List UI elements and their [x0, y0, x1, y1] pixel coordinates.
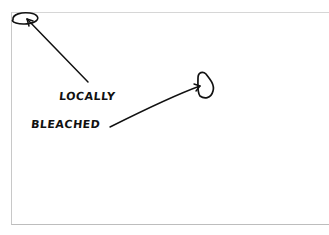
- arrow-to-right-region: [110, 84, 200, 127]
- arrow-shaft: [27, 19, 88, 82]
- annotation-label-bleached: BLEACHED: [30, 118, 101, 131]
- annotation-label-locally: LOCALLY: [58, 90, 116, 103]
- arrow-to-top-left: [27, 19, 88, 82]
- ellipse-outline: [12, 13, 37, 24]
- blob-outline: [198, 72, 214, 97]
- arrow-shaft: [110, 86, 200, 127]
- right-region-marker: [198, 72, 214, 97]
- top-left-region-marker: [12, 13, 37, 24]
